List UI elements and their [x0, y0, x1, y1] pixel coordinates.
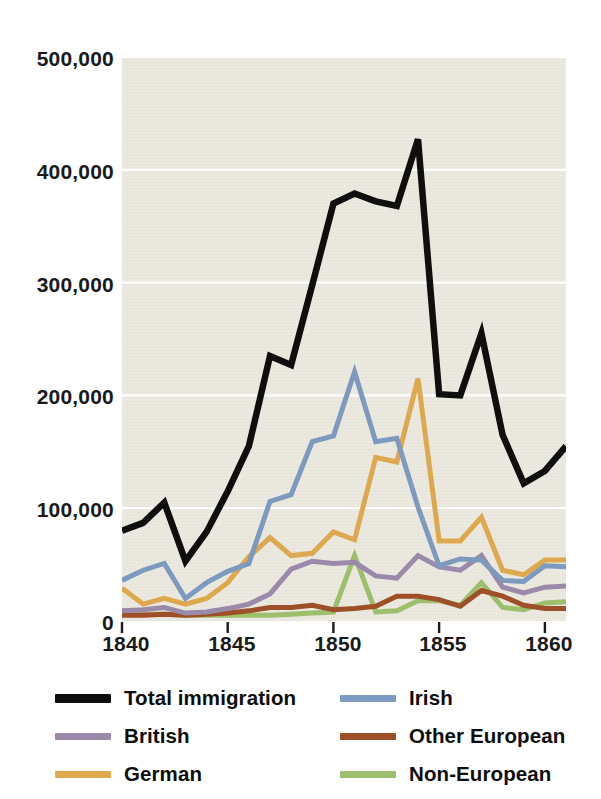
immigration-line-chart: 500,000 400,000 300,000 200,000 100,000 … [0, 0, 601, 799]
plot-svg [122, 57, 566, 621]
legend-label-irish: Irish [409, 686, 453, 710]
legend-item-other-european[interactable]: Other European [340, 724, 565, 748]
legend-item-british[interactable]: British [55, 724, 190, 748]
y-tick-label-300000: 300,000 [6, 274, 114, 295]
legend-label-other-european: Other European [409, 724, 565, 748]
x-tick-label-1850: 1850 [314, 632, 362, 656]
y-tick-label-400000: 400,000 [6, 161, 114, 182]
legend-item-non-european[interactable]: Non-European [340, 762, 551, 786]
series-line-total-immigration [122, 139, 566, 561]
plot-area [122, 57, 566, 621]
x-tick-label-1845: 1845 [208, 632, 256, 656]
y-axis-tick-labels: 500,000 400,000 300,000 200,000 100,000 … [0, 0, 114, 799]
y-tick-label-500000: 500,000 [6, 48, 114, 69]
x-axis-tick-labels: 1840 1845 1850 1855 1860 [0, 632, 601, 666]
chart-legend: Total immigrationIrishBritishOther Europ… [55, 686, 575, 786]
legend-swatch-irish [340, 695, 396, 702]
y-tick-label-100000: 100,000 [6, 499, 114, 520]
gridlines [122, 57, 566, 508]
legend-label-german: German [124, 762, 202, 786]
legend-label-non-european: Non-European [409, 762, 551, 786]
legend-label-total-immigration: Total immigration [124, 686, 296, 710]
x-tick-label-1860: 1860 [525, 632, 573, 656]
legend-item-total-immigration[interactable]: Total immigration [55, 686, 296, 710]
legend-label-british: British [124, 724, 190, 748]
series-lines [122, 139, 566, 615]
legend-swatch-total-immigration [55, 694, 111, 703]
legend-swatch-other-european [340, 733, 396, 740]
legend-swatch-non-european [340, 771, 396, 778]
legend-swatch-german [55, 771, 111, 778]
legend-swatch-british [55, 733, 111, 740]
x-tick-label-1840: 1840 [102, 632, 150, 656]
y-tick-label-200000: 200,000 [6, 386, 114, 407]
legend-item-irish[interactable]: Irish [340, 686, 453, 710]
legend-item-german[interactable]: German [55, 762, 202, 786]
x-tick-label-1855: 1855 [419, 632, 467, 656]
